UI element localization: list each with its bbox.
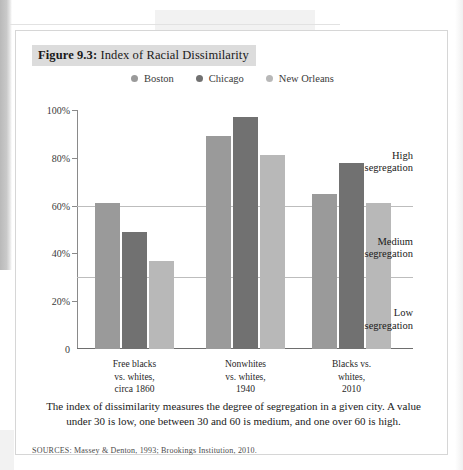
scan-top-rule [10,24,340,25]
x-axis-group-label-line: 1940 [186,383,306,396]
scan-left-page-edge [0,0,12,270]
x-axis-group-label: Blacks vs.whites,2010 [292,358,412,396]
x-axis-group-label-line: 2010 [292,383,412,396]
y-axis-tick-mark [72,253,77,254]
zone-annotation-medium: Mediumsegregation [321,236,413,261]
y-axis-tick-label: 20% [52,296,70,307]
bar-chicago-group-1 [122,232,147,349]
scan-top-artifact [155,10,315,32]
x-axis-group-label-line: Free blacks [75,358,195,371]
x-axis-group-label-line: whites, [292,371,412,384]
figure-container: Figure 9.3: Index of Racial Dissimilarit… [15,30,448,455]
zone-annotation-line1: Medium [321,236,413,249]
bar-boston-group-1 [95,203,120,349]
y-axis-tick-label: 0 [65,344,70,355]
figure-caption: The index of dissimilarity measures the … [46,399,421,429]
scan-right-page-edge [455,0,463,470]
y-axis-line [77,110,78,349]
y-axis-tick-label: 100% [47,105,70,116]
zone-annotation-line1: Low [321,307,413,320]
zone-annotation-line1: High [321,150,413,163]
x-axis-group-label: Nonwhitesvs. whites,1940 [186,358,306,396]
plot-area: 020%40%60%80%100%Free blacksvs. whites,c… [16,31,449,456]
x-axis-group-label: Free blacksvs. whites,circa 1860 [75,358,195,396]
scan-bottom-artifact [0,430,14,470]
zone-annotation-line2: segregation [321,320,413,333]
x-axis-group-label-line: vs. whites, [75,371,195,384]
plot-canvas: 020%40%60%80%100%Free blacksvs. whites,c… [77,110,395,349]
figure-sources: SOURCES: Massey & Denton, 1993; Brooking… [32,446,442,455]
bar-chicago-group-2 [233,117,258,349]
y-axis-tick-label: 60% [52,200,70,211]
zone-annotation-line2: segregation [321,248,413,261]
y-axis-tick-label: 40% [52,248,70,259]
x-axis-group-label-line: Nonwhites [186,358,306,371]
y-axis-tick-label: 80% [52,152,70,163]
y-axis-tick-mark [72,110,77,111]
x-axis-group-label-line: Blacks vs. [292,358,412,371]
bar-boston-group-2 [206,136,231,349]
x-axis-group-label-line: circa 1860 [75,383,195,396]
bar-new-orleans-group-2 [260,155,285,349]
y-axis-tick-mark [72,158,77,159]
bar-new-orleans-group-1 [149,261,174,349]
zone-annotation-line2: segregation [321,162,413,175]
y-axis-tick-mark [72,301,77,302]
zone-annotation-high: Highsegregation [321,150,413,175]
x-axis-group-label-line: vs. whites, [186,371,306,384]
zone-annotation-low: Lowsegregation [321,307,413,332]
